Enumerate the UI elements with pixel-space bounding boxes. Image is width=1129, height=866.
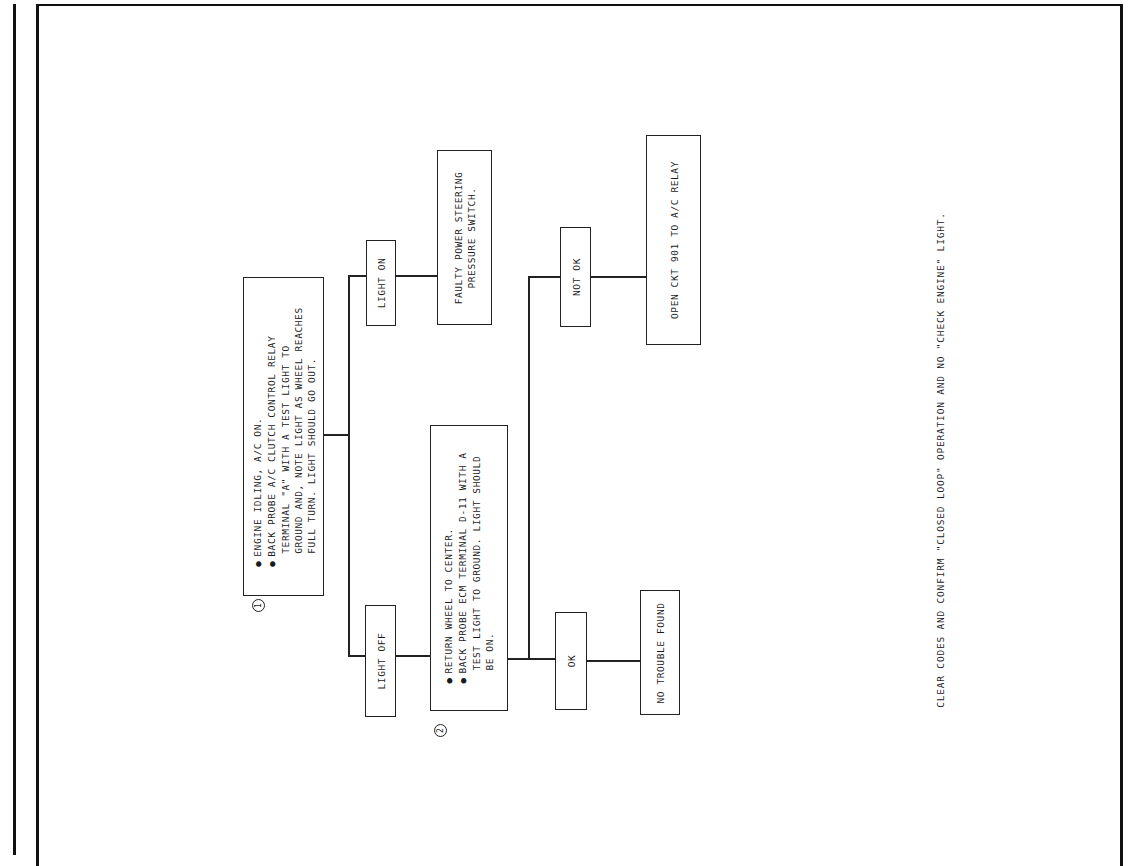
- step-2-text: RETURN WHEEL TO CENTER. BACK PROBE ECM T…: [442, 452, 496, 683]
- step-2-line: BE ON.: [483, 452, 496, 683]
- step-2-line: BACK PROBE ECM TERMINAL D-11 WITH A: [456, 452, 470, 683]
- connector-trunk-to-not-ok: [528, 276, 560, 278]
- connector-step1-to-trunk: [323, 434, 350, 436]
- connector-trunk-to-light-on: [348, 275, 366, 277]
- ok-label: OK: [565, 655, 578, 668]
- step-1-text: ENGINE IDLING, A/C ON. BACK PROBE A/C CL…: [250, 307, 317, 566]
- connector-ok-to-no-trouble: [587, 660, 640, 662]
- connector-step2-to-trunk: [508, 658, 555, 660]
- connector-trunk-to-light-off: [348, 655, 365, 657]
- diagram-frame: [36, 4, 1123, 866]
- step-1-line: ENGINE IDLING, A/C ON.: [250, 307, 264, 566]
- step-1-line: TERMINAL "A" WITH A TEST LIGHT TO: [278, 307, 291, 566]
- step-1-line: FULL TURN. LIGHT SHOULD GO OUT.: [304, 307, 317, 566]
- ok-box: OK: [555, 612, 587, 710]
- step-2-box: RETURN WHEEL TO CENTER. BACK PROBE ECM T…: [430, 425, 508, 711]
- connector-light-on-to-faulty: [395, 275, 437, 277]
- connector-not-ok-to-open-ckt: [591, 276, 646, 278]
- step-2-marker: 2: [434, 724, 447, 737]
- page-edge-line: [13, 4, 16, 855]
- light-off-label: LIGHT OFF: [374, 633, 387, 690]
- connector-trunk-2: [528, 276, 530, 659]
- faulty-switch-line: PRESSURE SWITCH.: [465, 171, 478, 304]
- open-circuit-box: OPEN CKT 901 TO A/C RELAY: [646, 135, 701, 345]
- no-trouble-box: NO TROUBLE FOUND: [640, 590, 680, 715]
- not-ok-box: NOT OK: [560, 227, 591, 327]
- connector-light-off-to-step2: [396, 655, 430, 657]
- step-2-line: TEST LIGHT TO GROUND. LIGHT SHOULD: [470, 452, 483, 683]
- open-circuit-text: OPEN CKT 901 TO A/C RELAY: [667, 161, 680, 319]
- step-1-line: BACK PROBE A/C CLUTCH CONTROL RELAY: [264, 307, 278, 566]
- footer-instruction: CLEAR CODES AND CONFIRM "CLOSED LOOP" OP…: [935, 212, 946, 707]
- not-ok-label: NOT OK: [569, 258, 582, 296]
- step-1-marker: 1: [252, 599, 265, 612]
- connector-trunk-1: [348, 275, 350, 656]
- light-on-label: LIGHT ON: [375, 258, 388, 309]
- no-trouble-text: NO TROUBLE FOUND: [654, 602, 667, 703]
- faulty-switch-text: FAULTY POWER STEERING PRESSURE SWITCH.: [452, 171, 478, 304]
- faulty-switch-box: FAULTY POWER STEERING PRESSURE SWITCH.: [437, 150, 492, 325]
- step-1-box: ENGINE IDLING, A/C ON. BACK PROBE A/C CL…: [243, 277, 324, 596]
- light-off-box: LIGHT OFF: [365, 605, 396, 717]
- light-on-box: LIGHT ON: [366, 240, 396, 326]
- faulty-switch-line: FAULTY POWER STEERING: [452, 171, 465, 304]
- step-1-line: GROUND AND, NOTE LIGHT AS WHEEL REACHES: [291, 307, 304, 566]
- step-2-line: RETURN WHEEL TO CENTER.: [442, 452, 456, 683]
